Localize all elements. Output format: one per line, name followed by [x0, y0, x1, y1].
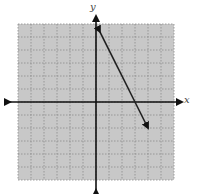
- x-axis-label: x: [184, 94, 190, 105]
- coordinate-plane: [0, 0, 198, 194]
- y-axis-label: y: [90, 1, 96, 12]
